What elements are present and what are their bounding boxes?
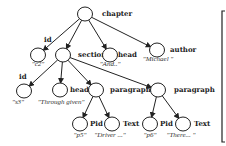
node-circle — [78, 7, 93, 21]
node-label: Text — [123, 119, 140, 128]
node-label: id — [19, 72, 27, 81]
node-circle — [17, 84, 32, 98]
node-circle — [151, 83, 166, 97]
side-panel-border — [222, 11, 225, 142]
node-chapter: chapter — [78, 7, 133, 21]
node-circle — [89, 83, 104, 97]
node-head2: head"Through given" — [38, 83, 89, 106]
node-value: "p5" — [74, 131, 87, 139]
node-circle — [176, 117, 191, 131]
node-label: head — [70, 85, 89, 94]
node-label: chapter — [102, 9, 132, 18]
node-label: paragraph — [110, 85, 151, 94]
node-value: "p6" — [144, 131, 157, 139]
node-label: Text — [194, 119, 211, 128]
node-value: "Driver ..." — [94, 131, 126, 139]
node-circle — [73, 117, 88, 131]
node-value: "There... " — [167, 131, 196, 139]
document-tree-diagram: chapterid"c2"sectionhead"And.."author"Mi… — [0, 0, 226, 146]
node-value: "And.." — [100, 60, 121, 68]
node-value: "c2" — [32, 60, 45, 68]
node-circle — [143, 117, 158, 131]
node-label: head — [118, 50, 137, 59]
edge-para2-pid2 — [152, 97, 157, 117]
node-value: "s3" — [12, 98, 24, 106]
node-circle — [105, 117, 120, 131]
edge-para1-pid1 — [83, 96, 93, 117]
node-text2: Text"There... " — [167, 117, 212, 139]
edge-chapter-head1 — [89, 20, 107, 49]
edge-para1-text1 — [99, 96, 109, 117]
node-para1: paragraph — [89, 83, 151, 97]
edge-para2-text2 — [162, 96, 179, 119]
node-label: id — [44, 35, 52, 44]
node-id1: id"c2" — [31, 35, 52, 68]
tree-nodes: chapterid"c2"sectionhead"And.."author"Mi… — [12, 7, 215, 139]
node-circle — [53, 83, 68, 97]
node-label: paragraph — [174, 85, 215, 94]
node-value: "Through given" — [38, 98, 85, 106]
node-label: Pid — [90, 119, 103, 128]
node-circle — [56, 48, 71, 62]
node-value: "Michael " — [143, 55, 174, 63]
edge-chapter-author — [91, 17, 150, 47]
node-head1: head"And.." — [100, 48, 137, 68]
edge-chapter-section — [66, 20, 81, 49]
node-label: author — [170, 45, 197, 54]
node-label: Pid — [160, 119, 173, 128]
edge-section-head2 — [61, 62, 63, 83]
node-id2: id"s3" — [12, 72, 32, 106]
node-author: author"Michael " — [143, 43, 197, 63]
node-para2: paragraph — [151, 83, 215, 97]
